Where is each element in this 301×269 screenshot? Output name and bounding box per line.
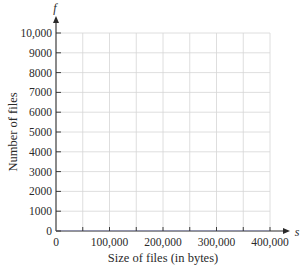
y-axis-title: Number of files: [6, 92, 20, 171]
y-tick-label: 6000: [29, 106, 52, 118]
y-tick-label: 0: [46, 225, 52, 237]
y-tick-label: 5000: [29, 126, 52, 138]
x-axis-title: Size of files (in bytes): [108, 251, 218, 265]
y-variable-label: f: [53, 1, 58, 15]
y-tick-label: 7000: [29, 86, 52, 98]
frequency-chart: 010002000300040005000600070008000900010,…: [0, 0, 301, 269]
y-tick-label: 4000: [29, 146, 52, 158]
y-axis-arrow-icon: [53, 16, 59, 23]
x-axis-arrow-icon: [283, 228, 290, 234]
grid-lines: [56, 33, 270, 231]
x-tick-label: 400,000: [251, 236, 289, 249]
x-tick-label: 200,000: [144, 236, 182, 249]
x-variable-label: s: [295, 225, 300, 239]
x-tick-label: 100,000: [91, 236, 129, 249]
x-tick-label: 0: [53, 236, 59, 248]
y-tick-label: 3000: [29, 166, 52, 178]
y-tick-label: 9000: [29, 47, 52, 59]
y-axis-ticks: 010002000300040005000600070008000900010,…: [20, 27, 61, 237]
y-tick-label: 2000: [29, 185, 52, 197]
y-tick-label: 1000: [29, 205, 52, 217]
y-tick-label: 8000: [29, 67, 52, 79]
y-tick-label: 10,000: [20, 27, 52, 40]
x-tick-label: 300,000: [198, 236, 236, 249]
axes: [53, 16, 290, 234]
